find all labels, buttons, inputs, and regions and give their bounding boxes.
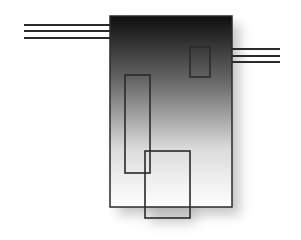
- main-gradient-block: [110, 16, 232, 207]
- diagram-canvas: [0, 0, 301, 240]
- main-block: [110, 16, 232, 207]
